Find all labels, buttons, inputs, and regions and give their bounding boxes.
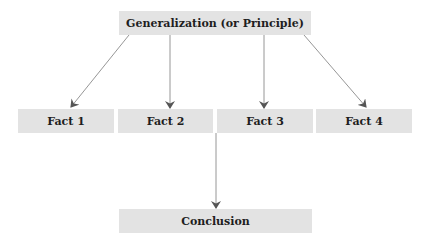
conclusion-label: Conclusion — [181, 215, 250, 228]
fact-label: Fact 2 — [147, 115, 185, 128]
fact-4-box: Fact 4 — [316, 109, 412, 133]
fact-2-box: Fact 2 — [118, 109, 213, 133]
conclusion-box: Conclusion — [119, 209, 312, 233]
generalization-box: Generalization (or Principle) — [119, 11, 311, 35]
fact-3-box: Fact 3 — [217, 109, 313, 133]
fact-label: Fact 4 — [345, 115, 383, 128]
generalization-label: Generalization (or Principle) — [126, 17, 304, 30]
fact-label: Fact 1 — [47, 115, 85, 128]
arrow-to-fact-1 — [71, 35, 129, 107]
fact-label: Fact 3 — [246, 115, 284, 128]
arrow-to-fact-4 — [304, 35, 366, 107]
fact-1-box: Fact 1 — [18, 109, 114, 133]
